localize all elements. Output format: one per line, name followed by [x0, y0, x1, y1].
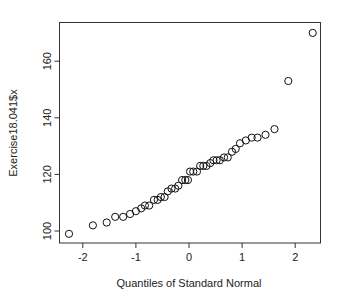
x-tick-label: -2 [78, 251, 88, 263]
data-point [309, 29, 316, 36]
data-point [89, 222, 96, 229]
data-point [271, 126, 278, 133]
data-points [65, 29, 316, 237]
x-tick-label: 0 [186, 251, 192, 263]
y-axis-title: Exercise18.041$x [7, 89, 19, 177]
qq-plot: -2-1012 100120140160 Quantiles of Standa… [0, 0, 337, 301]
x-tick-label: 2 [292, 251, 298, 263]
x-tick-label: 1 [239, 251, 245, 263]
data-point [285, 77, 292, 84]
y-tick-label: 160 [41, 52, 53, 70]
plot-frame [60, 23, 321, 244]
data-point [103, 219, 110, 226]
data-point [112, 213, 119, 220]
x-tick-label: -1 [131, 251, 141, 263]
x-axis-title: Quantiles of Standard Normal [117, 277, 262, 289]
data-point [262, 131, 269, 138]
y-axis: 100120140160 [41, 52, 60, 240]
y-tick-label: 120 [41, 165, 53, 183]
data-point [120, 213, 127, 220]
y-tick-label: 140 [41, 109, 53, 127]
data-point [65, 230, 72, 237]
x-axis: -2-1012 [78, 243, 298, 263]
y-tick-label: 100 [41, 222, 53, 240]
